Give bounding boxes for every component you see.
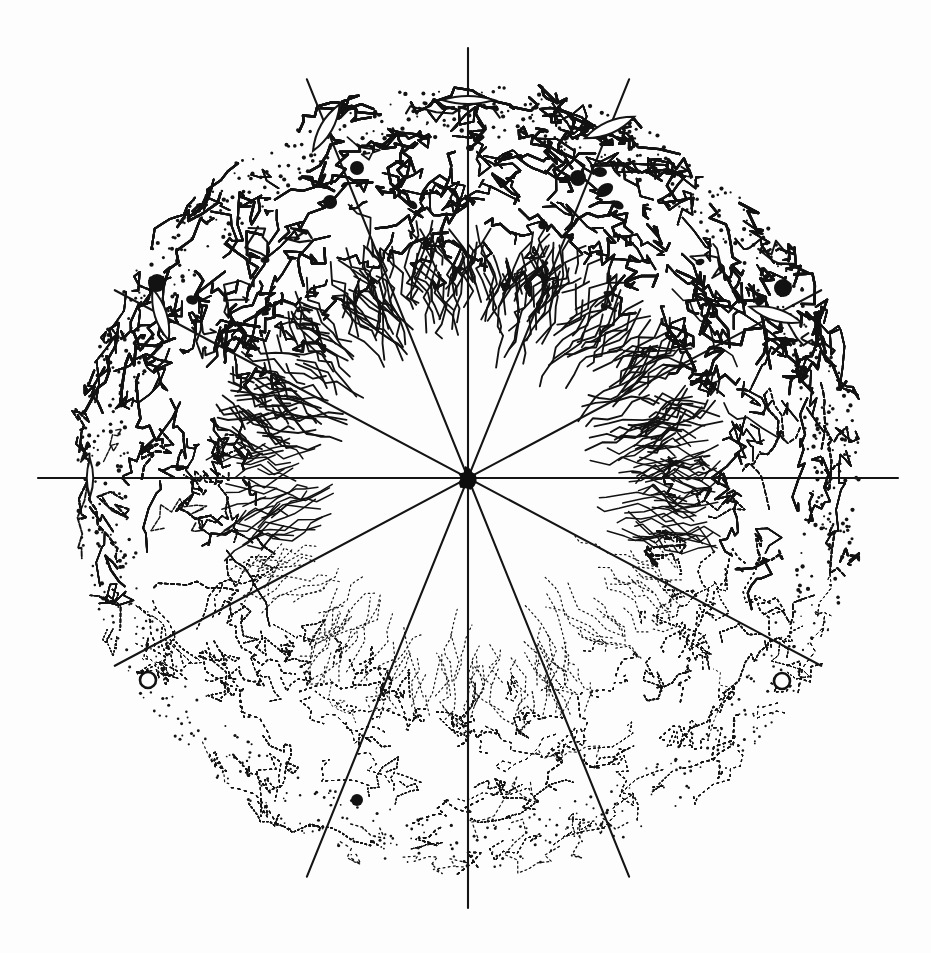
- contour-dot: [215, 219, 217, 221]
- contour-dot: [446, 124, 449, 127]
- contour-dot: [711, 235, 714, 238]
- axis-node-lower-right[interactable]: [774, 673, 790, 689]
- contour-dot: [532, 120, 535, 123]
- contour-dot: [752, 713, 754, 715]
- contour-dot: [534, 843, 537, 846]
- contour-dot: [652, 773, 654, 775]
- contour-dot: [801, 304, 805, 308]
- contour-dot: [493, 858, 495, 860]
- contour-dot: [234, 161, 238, 165]
- contour-dot: [498, 86, 501, 89]
- contour-dot: [111, 508, 115, 512]
- contour-dot: [617, 159, 621, 163]
- contour-dot: [263, 186, 267, 190]
- contour-dot: [766, 690, 769, 693]
- contour-dot: [94, 584, 96, 586]
- contour-dot: [181, 734, 183, 736]
- contour-dot: [521, 117, 525, 121]
- contour-dot: [227, 777, 229, 779]
- contour-dot: [228, 232, 232, 236]
- contour-dot: [317, 819, 320, 822]
- axis-node-right[interactable]: [774, 279, 792, 297]
- contour-dot: [417, 847, 420, 850]
- contour-dot: [389, 809, 391, 811]
- contour-dot: [180, 274, 184, 278]
- contour-dot: [843, 549, 846, 552]
- contour-dot: [565, 141, 568, 144]
- contour-dot: [545, 129, 549, 133]
- contour-dot: [236, 736, 239, 739]
- contour-dot: [151, 620, 153, 622]
- contour-dot: [815, 500, 818, 503]
- contour-dot: [396, 844, 398, 846]
- contour-dot: [818, 612, 820, 614]
- axis-node-upper-left[interactable]: [350, 161, 364, 175]
- contour-dot: [812, 434, 816, 438]
- axis-end-marker-vertical[interactable]: [442, 96, 494, 104]
- contour-dot: [668, 194, 672, 198]
- contour-dot: [119, 403, 123, 407]
- contour-dot: [807, 448, 810, 451]
- axis-end-marker-horizontal[interactable]: [87, 459, 94, 497]
- contour-dot: [825, 422, 828, 425]
- contour-dot: [96, 373, 100, 377]
- contour-dot: [311, 160, 313, 162]
- contour-dot: [326, 156, 329, 159]
- contour-dot: [251, 743, 253, 745]
- contour-dot: [142, 369, 146, 373]
- contour-dot: [416, 116, 418, 118]
- contour-dot: [93, 447, 95, 449]
- contour-dot: [398, 90, 401, 93]
- contour-dot: [136, 328, 140, 332]
- contour-dot: [491, 90, 495, 94]
- contour-dot: [556, 824, 559, 827]
- contour-dot: [130, 327, 133, 330]
- contour-dot: [802, 649, 804, 651]
- contour-dot: [827, 517, 830, 520]
- contour-dot: [371, 840, 374, 843]
- contour-dot: [261, 205, 263, 207]
- contour-dot: [134, 297, 137, 300]
- contour-dot: [528, 816, 530, 818]
- contour-dot: [227, 221, 231, 225]
- contour-dot: [771, 655, 773, 657]
- contour-dot: [122, 556, 125, 559]
- contour-dot: [392, 127, 395, 130]
- contour-dot: [482, 104, 486, 108]
- contour-dot: [842, 394, 846, 398]
- contour-dot: [828, 548, 830, 550]
- contour-dot: [173, 284, 175, 286]
- contour-dot: [92, 516, 95, 519]
- contour-dot: [807, 643, 809, 645]
- contour-dot: [185, 710, 187, 712]
- contour-dot: [224, 725, 226, 727]
- contour-dot: [312, 830, 314, 832]
- contour-dot: [575, 118, 578, 121]
- contour-dot: [410, 828, 413, 831]
- axis-node-lower-left[interactable]: [140, 672, 156, 688]
- contour-dot: [132, 556, 135, 559]
- contour-dot: [629, 148, 632, 151]
- contour-dot: [93, 440, 96, 443]
- contour-dot: [248, 190, 252, 194]
- axis-node-upper-left-2[interactable]: [323, 195, 337, 209]
- contour-dot: [492, 102, 496, 106]
- contour-dot: [798, 583, 802, 587]
- contour-dot: [450, 844, 452, 846]
- contour-dot: [382, 136, 386, 140]
- contour-dot: [246, 760, 248, 762]
- contour-dot: [763, 653, 766, 656]
- axis-node-upper-right[interactable]: [570, 170, 586, 186]
- axis-node-bottom[interactable]: [351, 794, 363, 806]
- contour-dot: [180, 669, 183, 672]
- contour-dot: [495, 855, 498, 858]
- contour-dot: [724, 191, 727, 194]
- axis-node-left[interactable]: [148, 274, 166, 292]
- contour-dot: [507, 110, 510, 113]
- contour-dot: [174, 735, 177, 738]
- contour-dot: [538, 818, 541, 821]
- contour-dot: [502, 86, 505, 89]
- contour-dot: [492, 851, 494, 853]
- contour-dot: [392, 837, 395, 840]
- contour-dot: [175, 248, 178, 251]
